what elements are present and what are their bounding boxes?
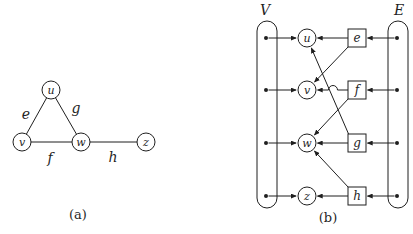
edge-set-label: E [393,2,404,18]
incidence-arrow-e-v [315,46,349,82]
vertex-w-label: w [76,136,86,149]
v-set-dot-w [264,141,268,145]
b-vertex-u-label: u [303,32,310,45]
panel-b: VEuevfwgzh(b) [257,2,408,225]
panel-b-caption: (b) [319,210,337,225]
vertex-z-label: z [142,136,149,149]
edge-f-label: f [46,150,55,166]
incidence-arrow-f-v-hop [318,86,349,91]
vertex-v-label: v [19,136,26,149]
figure-canvas: uvwzegfh(a)VEuevfwgzh(b) [0,0,413,234]
v-set-dot-z [264,194,268,198]
b-vertex-z-label: z [303,190,310,203]
b-edge-g-label: g [353,136,361,150]
incidence-arrow-h-w [315,151,349,188]
e-set-dot-h [395,194,399,198]
panel-a: uvwzegfh(a) [13,81,155,222]
vertex-set-label: V [260,2,272,18]
e-set-dot-e [395,36,399,40]
incidence-arrow-g-u [311,48,349,135]
b-edge-e-label: e [353,31,360,45]
panel-a-caption: (a) [69,207,87,222]
vertex-set-pill [257,21,277,208]
v-set-dot-u [264,36,268,40]
vertex-u-label: u [47,84,54,97]
e-set-dot-g [395,141,399,145]
edge-h-label: h [108,149,117,165]
b-vertex-v-label: v [304,84,311,97]
graph-incidence-figure: uvwzegfh(a)VEuevfwgzh(b) [0,0,413,234]
incidence-arrow-f-w [315,98,349,135]
edge-g-label: g [72,100,81,116]
v-set-dot-v [264,88,268,92]
b-vertex-w-label: w [302,137,312,150]
edge-set-pill [388,21,408,208]
edge-e-label: e [22,106,30,122]
b-edge-h-label: h [353,189,361,203]
e-set-dot-f [395,88,399,92]
